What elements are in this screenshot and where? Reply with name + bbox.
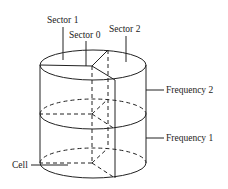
frequency2-label: Frequency 2 [166, 85, 213, 95]
hidden-bottom-front [92, 163, 115, 178]
sector2-label: Sector 2 [109, 24, 141, 34]
cell-label: Cell [12, 160, 28, 170]
sector-divider-back [92, 50, 108, 66]
middle-ellipse-front [40, 114, 146, 129]
sector-divider-front [92, 66, 115, 80]
hidden-mid-back [92, 99, 108, 114]
middle-ellipse-back [40, 99, 146, 114]
sector-divider-left [40, 65, 92, 66]
frequency1-label: Frequency 1 [166, 133, 213, 143]
hidden-mid-front [92, 114, 115, 129]
hidden-bottom-back [92, 148, 108, 163]
sector0-label: Sector 0 [69, 30, 101, 40]
cylinder-diagram: Sector 1 Sector 0 Sector 2 Frequency 2 F… [0, 0, 228, 189]
sector1-label: Sector 1 [47, 15, 79, 25]
bottom-ellipse-back [40, 148, 146, 163]
